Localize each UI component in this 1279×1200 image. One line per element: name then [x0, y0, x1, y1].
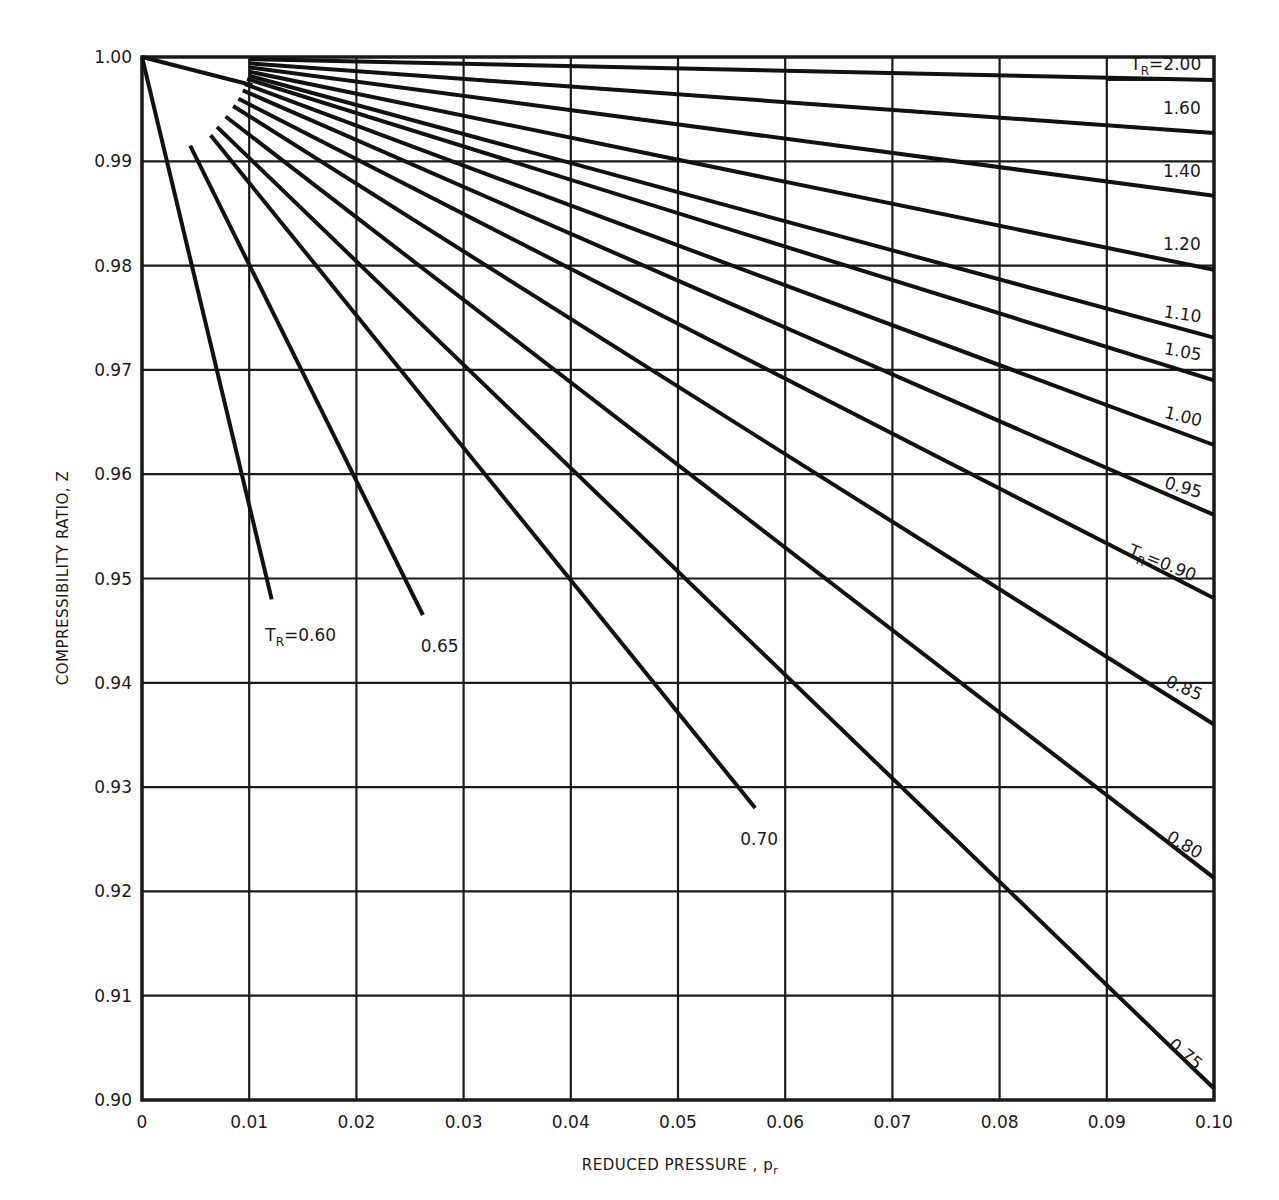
series-label: TR=0.90	[1124, 540, 1200, 589]
x-axis-title: REDUCED PRESSURE , pr	[582, 1156, 778, 1177]
compressibility-chart: 00.010.020.030.040.050.060.070.080.090.1…	[0, 0, 1279, 1200]
x-tick-label: 0.05	[659, 1112, 697, 1132]
x-tick-label: 0	[137, 1112, 148, 1132]
y-tick-label: 0.92	[94, 881, 132, 901]
svg-text:0.85: 0.85	[1163, 671, 1206, 705]
x-axis-ticks: 00.010.020.030.040.050.060.070.080.090.1…	[137, 1112, 1233, 1132]
series-line	[142, 57, 252, 85]
series-label: 0.85	[1163, 671, 1206, 705]
series-label: 1.60	[1163, 98, 1201, 118]
series-label: TR=2.00	[1129, 54, 1201, 78]
series-label: 1.10	[1162, 301, 1202, 326]
series-label: 1.05	[1162, 338, 1203, 364]
svg-text:0.75: 0.75	[1165, 1034, 1207, 1074]
x-tick-label: 0.01	[230, 1112, 268, 1132]
y-tick-label: 0.94	[94, 673, 132, 693]
y-tick-label: 0.96	[94, 464, 132, 484]
y-tick-label: 1.00	[94, 47, 132, 67]
series-line	[211, 135, 756, 808]
series-label: 0.70	[740, 829, 778, 849]
y-tick-label: 0.91	[94, 986, 132, 1006]
y-axis-title: COMPRESSIBILITY RATIO, Z	[54, 471, 72, 685]
y-tick-label: 0.99	[94, 151, 132, 171]
svg-text:1.20: 1.20	[1163, 234, 1201, 254]
series-line	[249, 72, 1214, 270]
series-label: 0.75	[1165, 1034, 1207, 1074]
svg-text:TR=0.90: TR=0.90	[1124, 540, 1200, 589]
svg-text:1.40: 1.40	[1163, 161, 1201, 181]
y-axis-ticks: 1.000.990.980.970.960.950.940.930.920.91…	[94, 47, 132, 1110]
y-tick-label: 0.90	[94, 1090, 132, 1110]
svg-text:1.60: 1.60	[1163, 98, 1201, 118]
x-tick-label: 0.02	[337, 1112, 375, 1132]
x-tick-label: 0.10	[1195, 1112, 1233, 1132]
series-line	[217, 127, 1214, 1089]
series-line	[233, 106, 1214, 725]
series-label: 1.40	[1163, 161, 1201, 181]
svg-text:0.70: 0.70	[740, 829, 778, 849]
svg-text:TR=0.60: TR=0.60	[264, 625, 336, 649]
series-label: 0.65	[421, 636, 459, 656]
series-label: TR=0.60	[264, 625, 336, 649]
svg-text:0.95: 0.95	[1163, 472, 1205, 502]
x-tick-label: 0.08	[981, 1112, 1019, 1132]
x-tick-label: 0.03	[445, 1112, 483, 1132]
x-tick-label: 0.09	[1088, 1112, 1126, 1132]
series-label: 0.95	[1163, 472, 1205, 502]
x-tick-label: 0.04	[552, 1112, 590, 1132]
y-tick-label: 0.98	[94, 256, 132, 276]
series-line	[190, 146, 423, 615]
series-label: 1.20	[1163, 234, 1201, 254]
svg-text:1.05: 1.05	[1162, 338, 1203, 364]
series-line	[249, 59, 1214, 80]
x-tick-label: 0.06	[766, 1112, 804, 1132]
y-tick-label: 0.93	[94, 777, 132, 797]
series-line	[243, 90, 1214, 515]
x-tick-label: 0.07	[873, 1112, 911, 1132]
svg-text:1.10: 1.10	[1162, 301, 1202, 326]
svg-text:TR=2.00: TR=2.00	[1129, 54, 1201, 78]
svg-text:0.65: 0.65	[421, 636, 459, 656]
y-tick-label: 0.97	[94, 360, 132, 380]
y-tick-label: 0.95	[94, 569, 132, 589]
